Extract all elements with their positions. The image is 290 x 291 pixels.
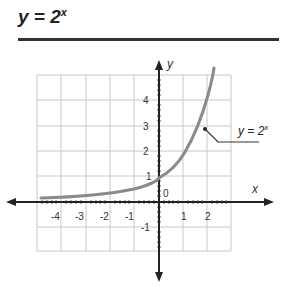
x-axis-left-arrow-icon — [6, 198, 16, 206]
curve-label: y = 2x — [237, 123, 269, 138]
x-tick-label: -1 — [125, 211, 134, 222]
grid — [37, 75, 231, 251]
x-tick-label: 1 — [181, 211, 187, 222]
axes — [6, 60, 274, 282]
x-axis-label: x — [251, 182, 259, 196]
y-axis-label: y — [166, 57, 174, 71]
x-axis-right-arrow-icon — [264, 198, 274, 206]
y-tick-label: 4 — [143, 95, 149, 106]
x-tick-label: -2 — [100, 211, 109, 222]
y-tick-label: -1 — [141, 222, 150, 233]
y-axis-down-arrow-icon — [155, 272, 163, 282]
x-tick-label: -3 — [75, 211, 84, 222]
x-tick-label: 2 — [205, 211, 211, 222]
origin-label: 0 — [163, 188, 169, 199]
y-tick-label: 3 — [143, 121, 149, 132]
y-tick-label: 1 — [146, 171, 152, 182]
curve-y-equals-2-to-x — [41, 68, 214, 198]
x-tick-label: -4 — [51, 211, 60, 222]
exponential-chart: -4 -3 -2 -1 1 2 4 3 2 1 -1 0 x y y = 2x — [0, 0, 290, 291]
y-tick-label: 2 — [143, 146, 149, 157]
y-axis-up-arrow-icon — [155, 60, 163, 70]
